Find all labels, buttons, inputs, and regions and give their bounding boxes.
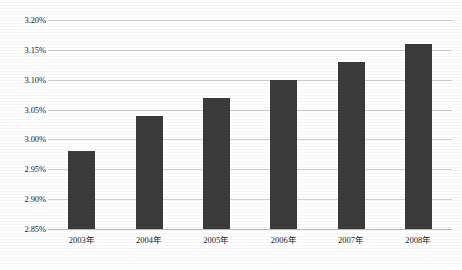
x-axis: 2003年2004年2005年2006年2007年2008年	[48, 233, 452, 251]
x-axis-tick-label: 2003年	[69, 233, 95, 245]
gridline	[48, 199, 452, 200]
plot-area	[48, 20, 452, 229]
y-axis-tick-label: 2.90%	[2, 194, 46, 204]
gridline	[48, 80, 452, 81]
bar	[136, 116, 163, 229]
bar	[338, 62, 365, 229]
bar	[203, 98, 230, 229]
bar	[405, 44, 432, 229]
bar	[68, 151, 95, 229]
x-axis-tick-label: 2006年	[271, 233, 297, 245]
y-axis-tick-label: 3.20%	[2, 15, 46, 25]
y-axis-tick-label: 3.15%	[2, 45, 46, 55]
x-axis-tick-label: 2005年	[203, 233, 229, 245]
y-axis-tick-label: 2.85%	[2, 224, 46, 234]
y-axis-tick-label: 3.10%	[2, 75, 46, 85]
bar	[270, 80, 297, 229]
y-axis-tick-label: 2.95%	[2, 164, 46, 174]
y-axis: 3.20%3.15%3.10%3.05%3.00%2.95%2.90%2.85%	[0, 20, 46, 229]
x-axis-tick-label: 2004年	[136, 233, 162, 245]
gridline	[48, 50, 452, 51]
x-axis-tick-label: 2007年	[338, 233, 364, 245]
y-axis-tick-label: 3.05%	[2, 105, 46, 115]
gridline	[48, 20, 452, 21]
gridline	[48, 139, 452, 140]
gridline	[48, 110, 452, 111]
bar-chart: 3.20%3.15%3.10%3.05%3.00%2.95%2.90%2.85%…	[0, 0, 462, 270]
gridline	[48, 229, 452, 230]
y-axis-tick-label: 3.00%	[2, 134, 46, 144]
gridline	[48, 169, 452, 170]
x-axis-tick-label: 2008年	[405, 233, 431, 245]
